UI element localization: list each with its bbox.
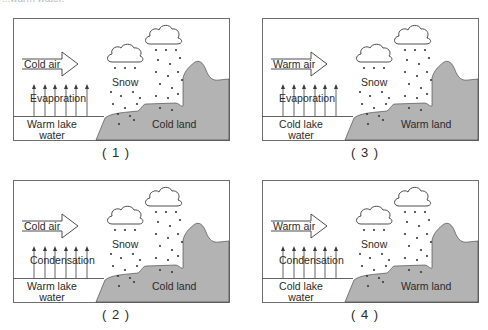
air-label: Warm air: [273, 220, 316, 232]
panel-svg: Cold air Condensation Snow Warm lake wat…: [0, 162, 244, 327]
snow-label: Snow: [361, 238, 388, 250]
diagram-panel-1: Cold air Evaporation Snow Warm lake wate…: [0, 0, 244, 165]
land-label: Cold land: [152, 118, 197, 130]
air-label: Warm air: [273, 58, 316, 70]
panel-svg: Cold air Evaporation Snow Warm lake wate…: [0, 0, 244, 165]
air-label: Cold air: [24, 58, 61, 70]
panel-caption: ( 1 ): [86, 145, 146, 160]
panel-caption: ( 2 ): [86, 307, 146, 322]
panel-caption: ( 3 ): [335, 145, 395, 160]
land-label: Warm land: [401, 118, 452, 130]
panel-svg: Warm air Evaporation Snow Cold lake wate…: [249, 0, 488, 165]
water-label-line2: water: [38, 291, 65, 303]
process-label: Condensation: [30, 254, 95, 266]
land-label: Warm land: [401, 280, 452, 292]
diagram-panel-4: Warm air Condensation Snow Cold lake wat…: [249, 162, 488, 327]
snow-label: Snow: [112, 238, 139, 250]
snow-label: Snow: [361, 76, 388, 88]
air-label: Cold air: [24, 220, 61, 232]
process-label: Evaporation: [279, 92, 335, 104]
water-label-line2: water: [38, 129, 65, 141]
diagram-panel-2: Cold air Condensation Snow Warm lake wat…: [0, 162, 244, 327]
panel-caption: ( 4 ): [335, 307, 395, 322]
land-label: Cold land: [152, 280, 197, 292]
water-label-line2: water: [287, 129, 314, 141]
panel-svg: Warm air Condensation Snow Cold lake wat…: [249, 162, 488, 327]
water-label-line2: water: [287, 291, 314, 303]
process-label: Condensation: [279, 254, 344, 266]
diagram-panel-3: Warm air Evaporation Snow Cold lake wate…: [249, 0, 488, 165]
snow-label: Snow: [112, 76, 139, 88]
process-label: Evaporation: [30, 92, 86, 104]
